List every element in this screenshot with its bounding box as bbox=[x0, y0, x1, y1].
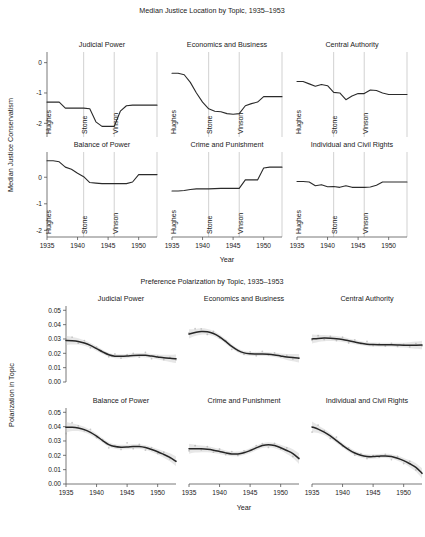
data-point bbox=[286, 354, 288, 356]
x-tick-label: 1935 bbox=[165, 242, 180, 249]
chief-justice-label: Stone bbox=[206, 116, 213, 134]
figure-root: Median Justice Location by Topic, 1935–1… bbox=[0, 0, 425, 537]
panel-title: Central Authority bbox=[325, 40, 379, 49]
data-point bbox=[292, 456, 294, 458]
data-point bbox=[200, 328, 202, 330]
data-point bbox=[409, 346, 411, 348]
data-point bbox=[415, 469, 417, 471]
chief-justice-label: Hughes bbox=[45, 209, 53, 234]
chief-justice-label: Stone bbox=[331, 216, 338, 234]
confidence-band bbox=[312, 421, 422, 478]
chart-title-polarization: Preference Polarization by Topic, 1935–1… bbox=[141, 277, 284, 286]
panel-central-authority: Central Authority bbox=[311, 294, 423, 349]
data-point bbox=[384, 454, 386, 456]
data-point bbox=[317, 424, 319, 426]
data-point bbox=[409, 460, 411, 462]
panel-title: Individual and Civil Rights bbox=[311, 140, 394, 149]
chief-justice-label: Vinson bbox=[112, 213, 119, 234]
data-point bbox=[126, 442, 128, 444]
data-point bbox=[397, 346, 399, 348]
chief-justice-label: Hughes bbox=[170, 209, 178, 234]
y-tick-label: 0.02 bbox=[48, 350, 61, 357]
chart-preference-polarization: Preference Polarization by Topic, 1935–1… bbox=[0, 270, 425, 537]
x-tick-label: 1945 bbox=[366, 489, 381, 496]
median-justice-line bbox=[172, 167, 282, 191]
y-tick-label: 0.00 bbox=[48, 378, 61, 385]
panel-balance-of-power: Balance of Power0.000.010.020.030.040.05… bbox=[48, 396, 177, 496]
panel-title: Judicial Power bbox=[98, 294, 145, 303]
data-point bbox=[354, 454, 356, 456]
data-point bbox=[336, 340, 338, 342]
y-tick-label: 0.01 bbox=[48, 364, 61, 371]
data-point bbox=[213, 331, 215, 333]
panel-judicial-power: Judicial Power0-1-2HughesStoneVinson bbox=[36, 40, 157, 137]
panel-title: Judicial Power bbox=[79, 40, 126, 49]
data-point bbox=[311, 431, 313, 433]
data-point bbox=[255, 355, 257, 357]
data-point bbox=[114, 353, 116, 355]
panel-title: Central Authority bbox=[340, 294, 394, 303]
panel-title: Economics and Business bbox=[204, 294, 285, 303]
data-point bbox=[90, 428, 92, 430]
data-point bbox=[286, 447, 288, 449]
data-point bbox=[206, 446, 208, 448]
data-point bbox=[151, 447, 153, 449]
data-point bbox=[163, 359, 165, 361]
data-point bbox=[336, 436, 338, 438]
y-tick-label: -2 bbox=[36, 120, 42, 127]
data-point bbox=[366, 458, 368, 460]
data-point bbox=[138, 444, 140, 446]
chief-justice-label: Hughes bbox=[295, 109, 303, 134]
chief-justice-label: Vinson bbox=[237, 213, 244, 234]
data-point bbox=[65, 338, 67, 340]
x-tick-label: 1945 bbox=[243, 489, 258, 496]
data-point bbox=[120, 449, 122, 451]
x-axis-label: Year bbox=[237, 503, 252, 512]
y-tick-label: 0.03 bbox=[48, 335, 61, 342]
data-point bbox=[83, 340, 85, 342]
chief-justice-label: Hughes bbox=[45, 109, 53, 134]
panel-title: Balance of Power bbox=[74, 140, 131, 149]
chief-justice-label: Vinson bbox=[112, 113, 119, 134]
data-point bbox=[77, 342, 79, 344]
panel-economics-and-business: Economics and BusinessHughesStoneVinson bbox=[170, 40, 282, 137]
data-point bbox=[391, 459, 393, 461]
x-tick-label: 1950 bbox=[150, 489, 165, 496]
panel-individual-and-civil-rights: Individual and Civil Rights1935194019451… bbox=[305, 396, 423, 496]
data-point bbox=[132, 352, 134, 354]
data-point bbox=[132, 448, 134, 450]
y-tick-label: 0.04 bbox=[48, 423, 61, 430]
chart-title-median-justice: Median Justice Location by Topic, 1935–1… bbox=[139, 6, 284, 15]
data-point bbox=[231, 348, 233, 350]
data-point bbox=[194, 328, 196, 330]
data-point bbox=[274, 443, 276, 445]
chief-justice-label: Stone bbox=[81, 216, 88, 234]
data-point bbox=[188, 450, 190, 452]
data-point bbox=[120, 357, 122, 359]
data-point bbox=[261, 351, 263, 353]
x-tick-label: 1950 bbox=[131, 242, 146, 249]
data-point bbox=[268, 447, 270, 449]
x-axis-label: Year bbox=[220, 255, 235, 264]
chart-median-justice-location: Median Justice Location by Topic, 1935–1… bbox=[0, 0, 425, 270]
data-point bbox=[391, 342, 393, 344]
x-tick-label: 1940 bbox=[335, 489, 350, 496]
x-tick-label: 1950 bbox=[273, 489, 288, 496]
x-tick-label: 1940 bbox=[195, 242, 210, 249]
x-tick-label: 1945 bbox=[226, 242, 241, 249]
data-point bbox=[145, 449, 147, 451]
panel-central-authority: Central AuthorityHughesStoneVinson bbox=[295, 40, 407, 137]
data-point bbox=[225, 454, 227, 456]
chief-justice-label: Stone bbox=[331, 116, 338, 134]
median-justice-line bbox=[47, 161, 157, 184]
data-point bbox=[77, 425, 79, 427]
data-point bbox=[243, 450, 245, 452]
data-point bbox=[237, 455, 239, 457]
data-point bbox=[360, 453, 362, 455]
data-point bbox=[151, 358, 153, 360]
x-tick-label: 1935 bbox=[182, 489, 197, 496]
data-point bbox=[71, 336, 73, 338]
data-point bbox=[65, 433, 67, 435]
y-tick-label: -2 bbox=[36, 227, 42, 234]
y-tick-label: 0.04 bbox=[48, 321, 61, 328]
